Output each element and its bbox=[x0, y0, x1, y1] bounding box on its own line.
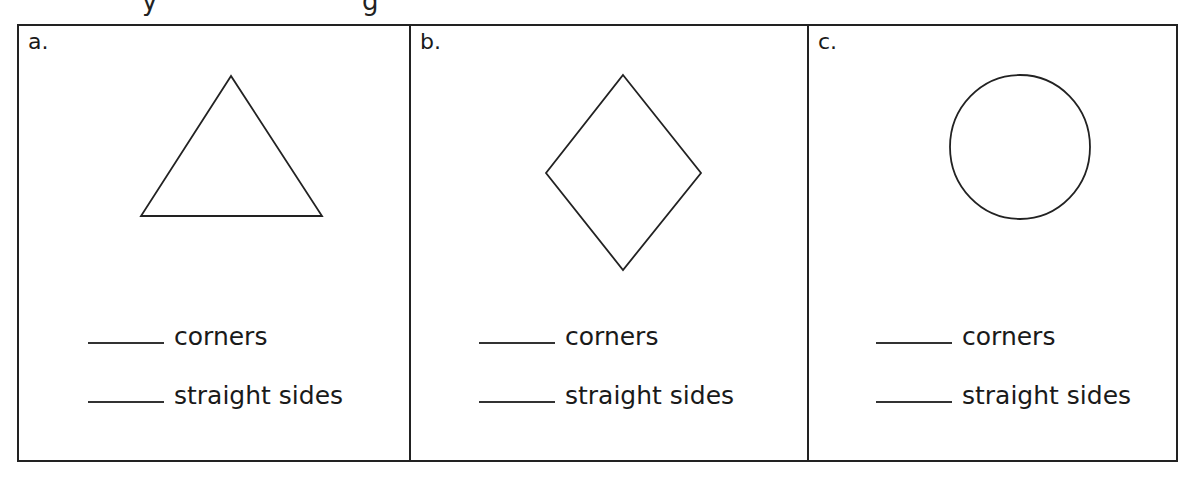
answer-blank[interactable] bbox=[479, 342, 555, 344]
answer-label: corners bbox=[565, 322, 658, 351]
corners-answer: corners bbox=[88, 322, 267, 351]
answer-label: corners bbox=[962, 322, 1055, 351]
corners-answer: corners bbox=[876, 322, 1055, 351]
triangle-shape bbox=[19, 26, 411, 326]
corners-answer: corners bbox=[479, 322, 658, 351]
answer-blank[interactable] bbox=[88, 401, 164, 403]
sides-answer: straight sides bbox=[479, 381, 734, 410]
cell-c: c. corners straight sides bbox=[807, 26, 1176, 460]
answer-blank[interactable] bbox=[88, 342, 164, 344]
answer-blank[interactable] bbox=[876, 401, 952, 403]
shapes-table: a. corners straight sides b. corners str… bbox=[17, 24, 1178, 462]
cell-a: a. corners straight sides bbox=[19, 26, 411, 460]
answer-blank[interactable] bbox=[479, 401, 555, 403]
cropped-text-fragment: g bbox=[362, 0, 379, 16]
answer-label: straight sides bbox=[565, 381, 734, 410]
circle-shape bbox=[809, 26, 1178, 326]
cell-b: b. corners straight sides bbox=[409, 26, 807, 460]
sides-answer: straight sides bbox=[88, 381, 343, 410]
answer-label: corners bbox=[174, 322, 267, 351]
diamond-shape bbox=[411, 26, 809, 326]
sides-answer: straight sides bbox=[876, 381, 1131, 410]
answer-label: straight sides bbox=[962, 381, 1131, 410]
answer-blank[interactable] bbox=[876, 342, 952, 344]
cropped-text-fragment: y bbox=[142, 0, 157, 16]
answer-label: straight sides bbox=[174, 381, 343, 410]
